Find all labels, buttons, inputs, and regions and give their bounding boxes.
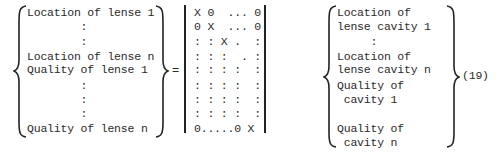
matrix-row: : : : : : [194, 94, 261, 106]
equation-number: (19) [462, 70, 489, 82]
matrix-row: : : X . : [194, 36, 261, 48]
left-vector-row: Location of lense 1 [27, 7, 154, 19]
right-vector-row: Quality of [337, 123, 404, 135]
right-vector-row: : [337, 36, 377, 48]
matrix-row: : : : : : [194, 80, 261, 92]
left-vector-row: : [27, 94, 87, 106]
matrix-row: 0 X ... 0 [194, 21, 261, 33]
left-vector-row: Quality of lense 1 [27, 64, 148, 76]
matrix-row: 0.....0 X [194, 123, 254, 135]
equals-sign: = [172, 64, 179, 78]
matrix-right-bar [264, 5, 266, 133]
left-vector-row: : [27, 80, 87, 92]
left-vector-open-brace [13, 4, 27, 139]
right-vector-row: lense cavity 1 [337, 21, 431, 33]
right-vector-row: cavity n [337, 137, 397, 149]
left-vector-row: Location of lense n [27, 51, 154, 63]
matrix-row: : : : : : [194, 108, 261, 120]
matrix-left-bar [184, 5, 186, 133]
left-vector-row: : [27, 108, 87, 120]
matrix-row: : : : : : [194, 64, 261, 76]
right-vector-open-brace [323, 4, 337, 149]
matrix-row: : : : . : [194, 51, 261, 63]
right-vector-row: Location of [337, 7, 411, 19]
right-vector-row: lense cavity n [337, 64, 431, 76]
left-vector-row: Quality of lense n [27, 123, 148, 135]
right-vector-row: cavity 1 [337, 94, 397, 106]
right-vector-close-brace [446, 4, 460, 149]
left-vector-row: : [27, 21, 87, 33]
right-vector-row: Location of [337, 51, 411, 63]
right-vector-row: Quality of [337, 80, 404, 92]
left-vector-row: : [27, 36, 87, 48]
left-vector-close-brace [155, 4, 169, 139]
matrix-row: X 0 ... 0 [194, 7, 261, 19]
